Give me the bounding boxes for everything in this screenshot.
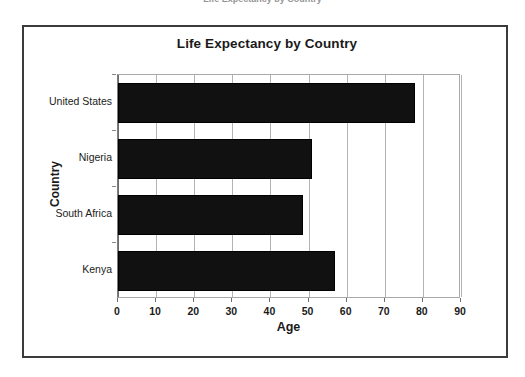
y-axis-category-labels: United StatesNigeriaSouth AfricaKenya [24,74,112,298]
x-tick-mark-80 [422,298,423,302]
x-tick-label-60: 60 [331,305,361,317]
x-tick-mark-60 [346,298,347,302]
chart-title: Life Expectancy by Country [24,36,510,51]
x-axis-title: Age [117,320,460,334]
y-category-label-south-africa: South Africa [55,207,112,219]
x-tick-label-70: 70 [369,305,399,317]
chart-figure-frame: Life Expectancy by Country Country Unite… [22,25,508,358]
bar-row [118,251,459,291]
x-tick-mark-10 [155,298,156,302]
bar-row [118,195,459,235]
y-tick-mark-1 [112,130,116,131]
bar-united-states[interactable] [118,83,415,123]
bar-nigeria[interactable] [118,139,312,179]
x-tick-mark-90 [460,298,461,302]
bar-row [118,83,459,123]
bar-kenya[interactable] [118,251,335,291]
plot-area [117,74,460,298]
y-category-label-united-states: United States [49,95,112,107]
x-tick-label-80: 80 [407,305,437,317]
y-category-label-kenya: Kenya [82,263,112,275]
clipped-title-sliver: Life Expectancy by Country [0,0,525,8]
x-tick-label-30: 30 [216,305,246,317]
y-tick-mark-2 [112,186,116,187]
y-tick-mark-0 [112,74,116,75]
x-tick-mark-0 [117,298,118,302]
y-tick-mark-3 [112,242,116,243]
x-tick-mark-70 [384,298,385,302]
y-category-label-nigeria: Nigeria [79,151,112,163]
gridline-x-90 [461,75,462,297]
x-tick-mark-20 [193,298,194,302]
x-tick-label-40: 40 [254,305,284,317]
x-tick-mark-30 [231,298,232,302]
x-tick-mark-50 [308,298,309,302]
x-tick-label-20: 20 [178,305,208,317]
bar-row [118,139,459,179]
x-tick-label-50: 50 [293,305,323,317]
x-tick-label-10: 10 [140,305,170,317]
x-tick-mark-40 [269,298,270,302]
bar-south-africa[interactable] [118,195,303,235]
x-tick-label-90: 90 [445,305,475,317]
x-tick-label-0: 0 [102,305,132,317]
